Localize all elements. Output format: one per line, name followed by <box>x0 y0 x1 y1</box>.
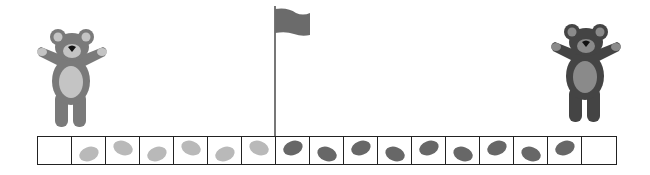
strip-cell <box>208 137 242 164</box>
dark-oval-counter <box>349 138 373 158</box>
teddy-bear-icon-left <box>35 27 111 129</box>
strip-cell <box>480 137 514 164</box>
dark-oval-counter <box>281 138 305 158</box>
light-oval-counter <box>145 144 169 164</box>
light-oval-counter <box>247 138 271 158</box>
light-oval-counter <box>179 138 203 158</box>
strip-cell <box>344 137 378 164</box>
strip-cell <box>174 137 208 164</box>
teddy-bear-icon-right <box>549 22 625 124</box>
strip-cell <box>72 137 106 164</box>
dark-oval-counter <box>417 138 441 158</box>
strip-cell <box>582 137 616 164</box>
strip-cell <box>106 137 140 164</box>
strip-cell <box>514 137 548 164</box>
light-oval-counter <box>111 138 135 158</box>
strip-cell <box>140 137 174 164</box>
strip-cell <box>38 137 72 164</box>
light-oval-counter <box>213 144 237 164</box>
strip-cell <box>242 137 276 164</box>
strip-cell <box>548 137 582 164</box>
light-oval-counter <box>77 144 101 164</box>
dark-oval-counter <box>315 144 339 164</box>
counting-strip <box>37 136 617 165</box>
counting-scene <box>0 0 650 175</box>
strip-cell <box>276 137 310 164</box>
strip-cell <box>412 137 446 164</box>
strip-cell <box>310 137 344 164</box>
flag-icon <box>270 4 316 138</box>
strip-cell <box>446 137 480 164</box>
dark-oval-counter <box>485 138 509 158</box>
dark-oval-counter <box>519 144 543 164</box>
dark-oval-counter <box>451 144 475 164</box>
strip-cell <box>378 137 412 164</box>
dark-oval-counter <box>383 144 407 164</box>
dark-oval-counter <box>553 138 577 158</box>
